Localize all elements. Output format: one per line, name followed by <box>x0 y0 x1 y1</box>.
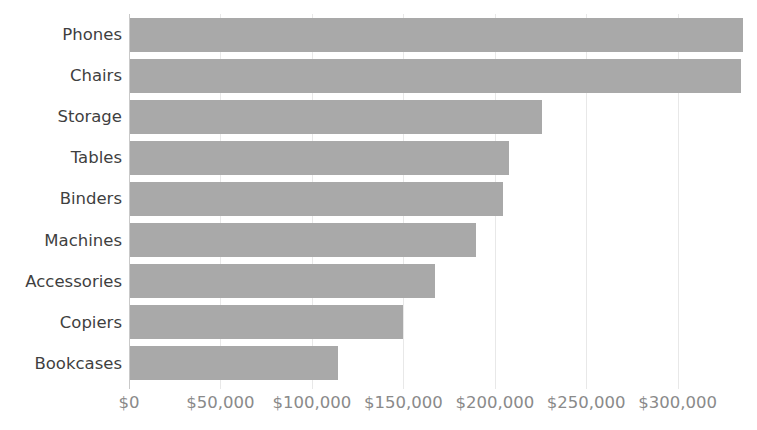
bar-bookcases[interactable] <box>130 346 338 380</box>
bar-row <box>129 96 749 137</box>
value-axis-tick-labels: $0$50,000$100,000$150,000$200,000$250,00… <box>129 392 749 418</box>
category-axis-labels: PhonesChairsStorageTablesBindersMachines… <box>0 14 122 389</box>
bar-phones[interactable] <box>130 18 743 52</box>
tick-label: $300,000 <box>638 392 717 414</box>
tick-label: $150,000 <box>364 392 443 414</box>
bar-chairs[interactable] <box>130 59 741 93</box>
bar-machines[interactable] <box>130 223 476 257</box>
tick-label: $50,000 <box>186 392 254 414</box>
bar-row <box>129 178 749 219</box>
bar-row <box>129 137 749 178</box>
bar-tables[interactable] <box>130 141 509 175</box>
plot-area <box>129 14 749 389</box>
category-label-chairs: Chairs <box>0 55 122 96</box>
bar-row <box>129 55 749 96</box>
bar-row <box>129 302 749 343</box>
category-label-accessories: Accessories <box>0 261 122 302</box>
bar-copiers[interactable] <box>130 305 403 339</box>
category-label-binders: Binders <box>0 178 122 219</box>
category-label-phones: Phones <box>0 14 122 55</box>
tick-label: $250,000 <box>547 392 626 414</box>
bar-row <box>129 343 749 384</box>
bar-row <box>129 220 749 261</box>
bar-chart: PhonesChairsStorageTablesBindersMachines… <box>0 0 757 430</box>
category-label-tables: Tables <box>0 137 122 178</box>
bar-binders[interactable] <box>130 182 503 216</box>
bar-row <box>129 261 749 302</box>
tick-label: $200,000 <box>455 392 534 414</box>
category-label-machines: Machines <box>0 220 122 261</box>
bar-storage[interactable] <box>130 100 542 134</box>
tick-label: $100,000 <box>273 392 352 414</box>
category-label-storage: Storage <box>0 96 122 137</box>
bars <box>129 14 749 389</box>
category-label-copiers: Copiers <box>0 302 122 343</box>
category-label-bookcases: Bookcases <box>0 343 122 384</box>
tick-label: $0 <box>119 392 140 414</box>
bar-row <box>129 14 749 55</box>
bar-accessories[interactable] <box>130 264 435 298</box>
